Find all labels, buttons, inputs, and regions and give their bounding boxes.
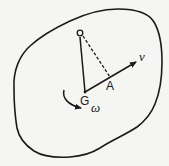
label-omega: ω [91, 100, 100, 115]
diagram-canvas: O G A v ω [0, 0, 169, 166]
label-A: A [106, 79, 114, 93]
point-O-marker [77, 30, 83, 36]
rotation-arrow-icon [64, 90, 81, 108]
segment-OG [80, 37, 85, 92]
rigid-body-diagram: O G A v ω [0, 0, 169, 166]
point-G-marker [84, 91, 87, 94]
label-G: G [80, 94, 89, 108]
rigid-body-outline [14, 9, 162, 157]
segment-OA-dashed [83, 36, 110, 77]
label-v: v [139, 49, 145, 64]
